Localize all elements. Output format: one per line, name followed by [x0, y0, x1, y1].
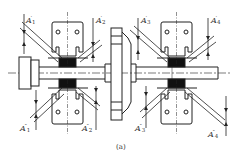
- label-a1-prime: A′1: [26, 16, 36, 26]
- label-a2-double-prime: A″2: [82, 124, 92, 134]
- diagram-drawing: [0, 0, 237, 154]
- label-a1-double-prime: A″1: [20, 124, 30, 134]
- label-a3-double-prime: A″3: [135, 124, 145, 134]
- label-a4-prime: A′4: [211, 16, 221, 26]
- label-a2-prime: A′2: [96, 16, 106, 26]
- label-a3-prime: A′3: [141, 16, 151, 26]
- bearing-housing-right-bottom: [157, 79, 197, 134]
- label-a4-double-prime: A″4: [208, 130, 218, 140]
- shaft-end-collar: [19, 57, 39, 89]
- figure-caption: (a): [116, 144, 126, 151]
- coupling-flange: [105, 28, 136, 120]
- shaft-alignment-diagram: A′1 A′2 A′3 A′4 A″1 A″2 A″3 A″4 (a): [0, 0, 237, 154]
